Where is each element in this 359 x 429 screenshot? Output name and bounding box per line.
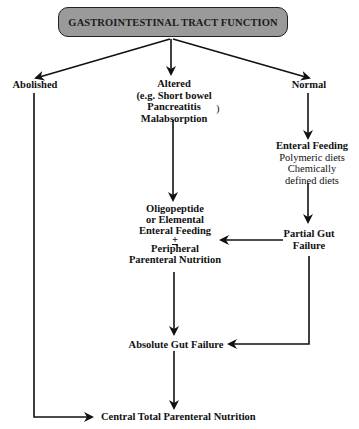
node-abolished: Abolished — [4, 79, 66, 91]
node-enteral-feeding: Enteral Feeding Polymeric diets Chemical… — [270, 140, 354, 186]
node-altered: Altered (e.g. Short bowel Pancreatitis M… — [126, 78, 222, 124]
node-central-tpn: Central Total Parenteral Nutrition — [101, 411, 255, 423]
arrow-header-to-abolished — [36, 39, 170, 78]
arrow-abolished-to-central — [34, 93, 92, 417]
arrow-header-to-normal — [173, 39, 309, 78]
gi-tract-function-header: GASTROINTESTINAL TRACT FUNCTION — [58, 7, 288, 37]
arrow-partial-to-absolute — [229, 256, 309, 344]
node-oligopeptide-feeding: Oligopeptide or Elemental Enteral Feedin… — [124, 204, 226, 266]
altered-closing-paren: ) — [216, 103, 220, 115]
node-absolute-gut-failure: Absolute Gut Failure — [128, 339, 224, 351]
node-normal: Normal — [285, 79, 333, 91]
node-partial-gut-failure: Partial Gut Failure — [280, 228, 338, 251]
header-title: GASTROINTESTINAL TRACT FUNCTION — [68, 17, 277, 28]
